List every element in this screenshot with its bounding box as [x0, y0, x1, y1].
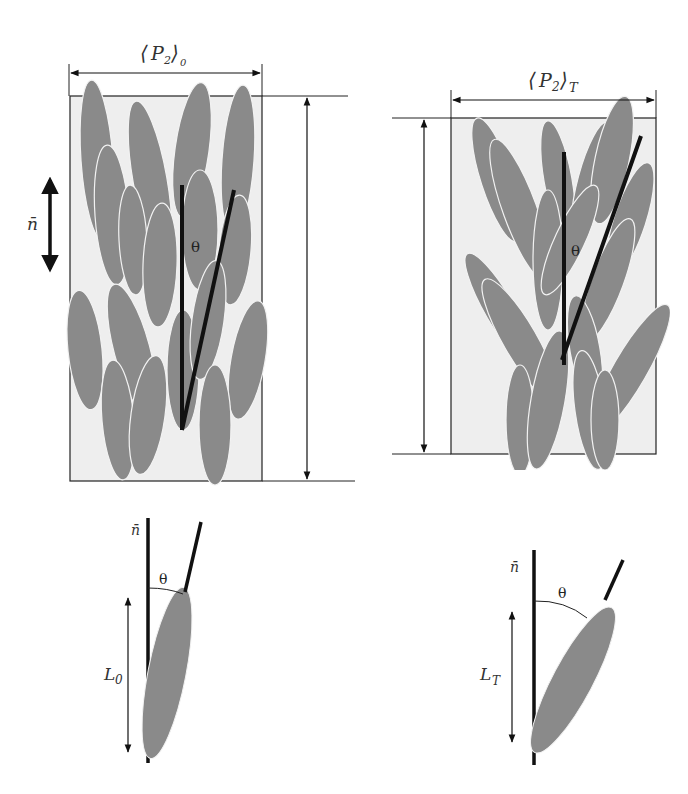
svg-text:P: P — [538, 69, 553, 91]
svg-text:P: P — [150, 42, 165, 64]
svg-text:0: 0 — [115, 673, 123, 687]
left-angle-label: θ — [191, 238, 200, 256]
left-width-label: ⟨ P 2 ⟩ 0 — [140, 41, 187, 68]
svg-text:T: T — [569, 80, 579, 95]
br-angle-arc — [534, 601, 587, 618]
right-panel: θ ⟨ P 2 ⟩ T — [392, 68, 682, 475]
bl-molecule-axis — [185, 522, 201, 592]
svg-text:2: 2 — [551, 80, 560, 94]
br-length-label: L T — [479, 664, 501, 688]
svg-text:2: 2 — [163, 54, 171, 67]
svg-text:L: L — [103, 664, 115, 684]
br-molecule-axis — [605, 560, 623, 600]
bl-length-label: L 0 — [103, 664, 123, 687]
right-angle-label: θ — [571, 242, 580, 260]
single-molecule-initial: θ n̄ L 0 — [103, 518, 202, 763]
bl-molecule — [132, 584, 203, 762]
single-molecule-tilted: θ n̄ L T — [479, 550, 629, 765]
svg-text:⟩: ⟩ — [559, 68, 568, 92]
svg-text:⟨: ⟨ — [528, 68, 536, 92]
svg-text:L: L — [479, 664, 491, 684]
bl-angle-label: θ — [159, 571, 167, 587]
bl-director-label: n̄ — [131, 522, 140, 538]
br-angle-label: θ — [558, 585, 566, 601]
svg-text:⟩: ⟩ — [170, 41, 179, 65]
liquid-crystal-diagram: θ ⟨ P 2 ⟩ 0 n̄ — [0, 0, 688, 794]
svg-text:⟨: ⟨ — [140, 41, 148, 65]
svg-text:0: 0 — [180, 57, 187, 68]
svg-text:T: T — [492, 674, 501, 688]
director-label: n̄ — [27, 214, 38, 234]
br-director-label: n̄ — [510, 559, 519, 575]
left-panel: θ ⟨ P 2 ⟩ 0 n̄ — [27, 41, 355, 485]
right-width-label: ⟨ P 2 ⟩ T — [528, 68, 579, 95]
